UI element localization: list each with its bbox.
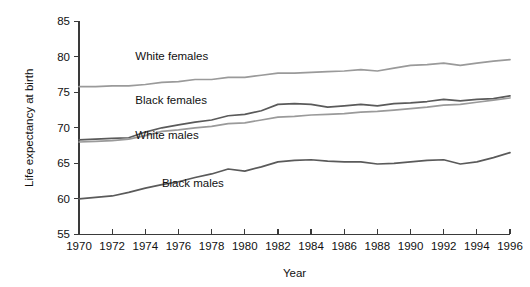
- y-axis: 55606570758085: [57, 15, 79, 240]
- x-tick-label-1984: 1984: [298, 240, 324, 252]
- series-line-white-females: [79, 60, 510, 87]
- x-tick-label-1982: 1982: [265, 240, 291, 252]
- x-tick-label-1992: 1992: [431, 240, 457, 252]
- y-tick-label-85: 85: [57, 15, 70, 27]
- y-tick-label-65: 65: [57, 157, 70, 169]
- y-tick-label-80: 80: [57, 51, 70, 63]
- y-axis-title: Life expectancy at birth: [23, 69, 35, 187]
- x-tick-label-1996: 1996: [497, 240, 523, 252]
- x-tick-label-1980: 1980: [232, 240, 258, 252]
- life-expectancy-line-chart: 55606570758085 1970197219741976197819801…: [0, 0, 530, 287]
- x-axis: 1970197219741976197819801982198419861988…: [66, 229, 523, 252]
- x-tick-label-1990: 1990: [398, 240, 424, 252]
- x-tick-label-1970: 1970: [66, 240, 92, 252]
- y-tick-label-55: 55: [57, 228, 70, 240]
- series-label-white-females: White females: [135, 50, 208, 62]
- x-tick-label-1976: 1976: [166, 240, 192, 252]
- x-tick-label-1986: 1986: [331, 240, 357, 252]
- series-label-white-males: White males: [135, 129, 199, 141]
- y-tick-label-70: 70: [57, 122, 70, 134]
- x-tick-label-1974: 1974: [133, 240, 159, 252]
- x-tick-label-1978: 1978: [199, 240, 225, 252]
- x-tick-label-1988: 1988: [365, 240, 391, 252]
- x-axis-title: Year: [283, 267, 306, 279]
- series-label-black-females: Black females: [135, 94, 207, 106]
- series-labels: White femalesBlack femalesWhite malesBla…: [135, 50, 224, 189]
- series-line-black-males: [79, 153, 510, 199]
- x-tick-label-1972: 1972: [99, 240, 125, 252]
- series-label-black-males: Black males: [162, 177, 224, 189]
- y-tick-label-75: 75: [57, 86, 70, 98]
- x-tick-label-1994: 1994: [464, 240, 490, 252]
- y-tick-label-60: 60: [57, 193, 70, 205]
- chart-canvas: 55606570758085 1970197219741976197819801…: [0, 0, 530, 287]
